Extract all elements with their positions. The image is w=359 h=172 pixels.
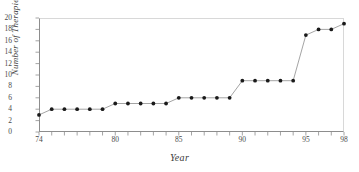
data-point-marker (342, 22, 346, 26)
data-point-marker (279, 79, 283, 83)
data-point-marker (88, 107, 92, 111)
y-axis-tick-label: 8 (0, 82, 12, 90)
data-point-marker (126, 102, 130, 106)
y-axis-tick-label: 4 (0, 105, 12, 113)
data-point-marker (164, 102, 168, 106)
data-point-marker (228, 96, 232, 100)
x-axis-tick-label: 90 (229, 136, 255, 144)
y-axis-tick-label: 12 (0, 60, 12, 68)
therapies-per-year-line-chart: Number of Therapies 02468101214161820 74… (0, 0, 359, 172)
y-axis-tick-label: 18 (0, 25, 12, 33)
data-point-marker (177, 96, 181, 100)
data-point-marker (101, 107, 105, 111)
y-axis-tick-label: 2 (0, 117, 12, 125)
data-point-marker (304, 33, 308, 37)
data-point-marker (50, 107, 54, 111)
data-point-marker (253, 79, 257, 83)
x-axis-tick-label: 98 (331, 136, 357, 144)
x-axis-tick-label: 95 (293, 136, 319, 144)
data-point-marker (113, 102, 117, 106)
y-axis-tick-label: 14 (0, 48, 12, 56)
data-point-marker (202, 96, 206, 100)
y-axis-tick-label: 10 (0, 71, 12, 79)
x-axis-tick-label: 74 (26, 136, 52, 144)
data-point-marker (151, 102, 155, 106)
data-point-marker (139, 102, 143, 106)
data-point-marker (291, 79, 295, 83)
y-axis-tick-label: 0 (0, 128, 12, 136)
data-point-marker (75, 107, 79, 111)
data-point-marker (63, 107, 67, 111)
x-axis-tick-label: 80 (102, 136, 128, 144)
data-point-marker (37, 113, 41, 117)
y-axis-tick-label: 20 (0, 14, 12, 22)
x-axis-tick-label: 85 (166, 136, 192, 144)
plot-area (39, 18, 344, 132)
data-series-svg (39, 18, 344, 132)
data-point-marker (240, 79, 244, 83)
x-axis-title: Year (0, 152, 359, 163)
data-point-marker (266, 79, 270, 83)
y-axis-tick-label: 16 (0, 37, 12, 45)
data-point-marker (190, 96, 194, 100)
y-axis-tick-label: 6 (0, 94, 12, 102)
data-point-marker (317, 28, 321, 32)
data-line (39, 24, 344, 115)
data-point-marker (215, 96, 219, 100)
data-point-marker (329, 28, 333, 32)
